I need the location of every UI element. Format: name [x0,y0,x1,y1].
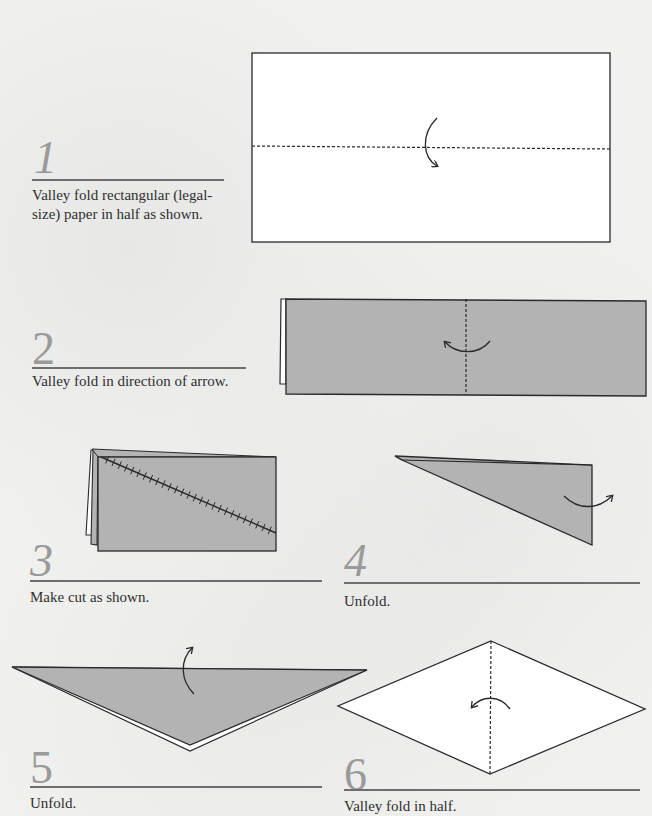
step-4-caption: Unfold. [344,592,390,611]
step-3-caption: Make cut as shown. [30,588,149,607]
step-1-caption-line2: size) paper in half as shown. [32,205,252,224]
paper-triangle [395,456,592,545]
step-6-number: 6 [344,752,367,798]
step-6-diagram [338,641,645,774]
step-3-number: 3 [30,538,53,584]
diagrams-layer [0,0,652,816]
step-2-caption: Valley fold in direction of arrow. [32,372,228,391]
step-5-divider [30,786,322,788]
step-4-divider [344,582,640,584]
step-5-caption: Unfold. [30,794,76,813]
step-2-divider [32,367,246,369]
step-1-number: 1 [34,135,57,181]
step-3-diagram [86,449,276,551]
paper-triangle [12,667,367,745]
step-3-divider [30,580,322,582]
step-4-diagram [395,456,612,545]
step-2-number: 2 [32,326,55,372]
paper-rectangle [252,53,610,242]
step-1-diagram [252,53,610,242]
step-1-caption-line1: Valley fold rectangular (legal- [32,186,252,205]
top-edge-layer [92,449,276,457]
step-1-divider [32,179,224,181]
back-layer [280,299,286,384]
step-5-diagram [12,648,367,751]
step-2-diagram [280,299,646,396]
step-1-caption: Valley fold rectangular (legal- size) pa… [32,186,252,224]
step-6-divider [344,789,640,791]
step-6-caption: Valley fold in half. [344,797,456,816]
step-5-number: 5 [30,745,53,791]
paper-diamond [338,641,645,774]
step-4-number: 4 [344,538,367,584]
